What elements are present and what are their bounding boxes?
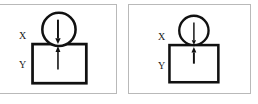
figure-stage: X Y X Y <box>0 0 258 104</box>
label-x-right: X <box>158 32 165 42</box>
right-diagram-canvas <box>129 5 250 93</box>
label-x-left: X <box>19 31 26 41</box>
left-diagram-canvas <box>0 5 116 93</box>
label-y-right: Y <box>158 61 165 71</box>
left-diagram-panel: X Y <box>0 4 117 94</box>
right-diagram-panel: X Y <box>128 4 251 94</box>
label-y-left: Y <box>19 60 26 70</box>
